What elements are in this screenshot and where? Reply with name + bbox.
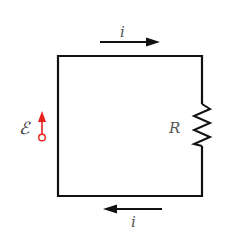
wire-loop [58, 56, 202, 196]
emf-arrow-icon [38, 111, 46, 141]
resistor-label: R [168, 119, 180, 137]
current-arrow-top [100, 38, 160, 47]
arrow-left-icon [103, 205, 117, 214]
current-label-bottom: i [131, 213, 136, 231]
current-label-top: i [120, 23, 125, 41]
circuit-wires [58, 56, 202, 196]
emf-label: ℰ [19, 118, 31, 138]
resistor-icon [194, 104, 210, 146]
arrow-right-icon [146, 38, 160, 47]
circuit-diagram: R i i ℰ [0, 0, 238, 237]
